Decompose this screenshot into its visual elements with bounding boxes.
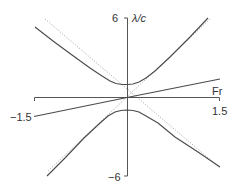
dispersion-chart: 6 λ/c −6 Fr −1.5 1.5 [0,0,236,191]
lower-branch-curve [47,110,220,176]
asymptote-line-2 [45,19,220,168]
upper-branch-curve [35,18,208,85]
y-tick-bottom-label: −6 [108,171,121,183]
x-axis-label: Fr [212,85,223,97]
y-tick-top-label: 6 [112,12,118,24]
y-axis-label: λ/c [131,12,146,24]
x-tick-left-label: −1.5 [10,111,32,123]
x-tick-right-label: 1.5 [212,105,227,117]
